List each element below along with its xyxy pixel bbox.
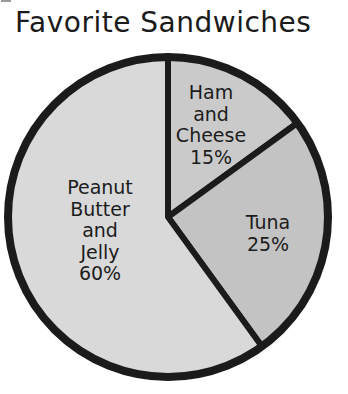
pie-chart-canvas <box>0 0 348 394</box>
pie-chart: Ham and Cheese 15% Tuna 25% Peanut Butte… <box>0 0 348 394</box>
